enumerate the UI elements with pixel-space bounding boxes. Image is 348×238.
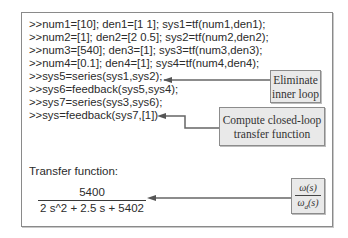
code-line-2: >>num2=[1]; den2=[2 0.5]; sys2=tf(num2,d… bbox=[29, 31, 269, 44]
tf-denominator: 2 s^2 + 2.5 s + 5402 bbox=[38, 202, 146, 215]
code-line-5: >>sys5=series(sys1,sys2); bbox=[29, 70, 162, 83]
code-line-8: >>sys=feedback(sys7,[1]) bbox=[29, 109, 158, 122]
callout-eliminate-line1: Eliminate bbox=[271, 73, 320, 87]
callout-compute-line1: Compute closed-loop bbox=[220, 113, 324, 127]
omega-symbol: ω bbox=[297, 197, 304, 208]
omega-suffix: (s) bbox=[308, 197, 319, 208]
transfer-function-label: Transfer function: bbox=[29, 165, 118, 177]
code-line-4: >>num4=[0.1]; den4=[1]; sys4=tf(num4,den… bbox=[29, 57, 259, 70]
omega-fraction-bar bbox=[295, 195, 321, 196]
omega-numerator: ω(s) bbox=[292, 182, 324, 194]
callout-compute-closed-loop: Compute closed-loop transfer function bbox=[219, 107, 325, 146]
omega-denominator: ωd(s) bbox=[292, 197, 324, 213]
code-line-7: >>sys7=series(sys3,sys6); bbox=[29, 96, 162, 109]
tf-numerator: 5400 bbox=[38, 186, 146, 199]
callout-compute-line2: transfer function bbox=[220, 127, 324, 141]
callout-eliminate-line2: inner loop bbox=[271, 87, 320, 101]
transfer-function-fraction: 5400 2 s^2 + 2.5 s + 5402 bbox=[38, 186, 146, 215]
omega-ratio-callout: ω(s) ωd(s) bbox=[291, 178, 325, 214]
code-line-6: >>sys6=feedback(sys5,sys4); bbox=[29, 83, 178, 96]
fraction-bar bbox=[38, 200, 146, 201]
code-line-1: >>num1=[10]; den1=[1 1]; sys1=tf(num1,de… bbox=[29, 18, 265, 31]
callout-eliminate-inner-loop: Eliminate inner loop bbox=[270, 70, 321, 103]
code-line-3: >>num3=[540]; den3=[1]; sys3=tf(num3,den… bbox=[29, 44, 262, 57]
